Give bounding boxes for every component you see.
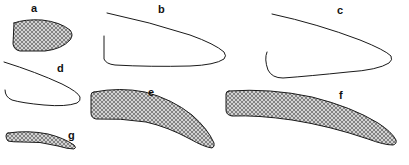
- specimen-outline-svg: abcdefg: [0, 0, 409, 165]
- panel-label-e: e: [148, 86, 154, 98]
- panel-label-a: a: [31, 2, 38, 14]
- panel-label-b: b: [158, 3, 165, 15]
- panel-label-d: d: [57, 62, 64, 74]
- panel-label-c: c: [337, 4, 343, 16]
- figure-plate: abcdefg: [0, 0, 409, 165]
- panel-label-g: g: [68, 129, 75, 141]
- panel-label-f: f: [339, 89, 343, 101]
